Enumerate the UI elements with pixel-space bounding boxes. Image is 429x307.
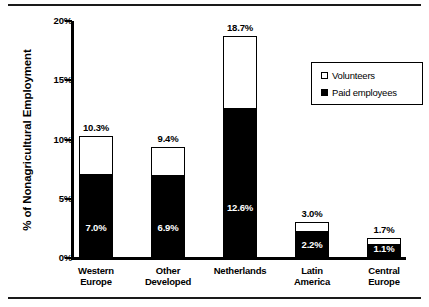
category-label-line: Developed	[129, 276, 207, 287]
category-label-line: America	[273, 276, 351, 287]
y-axis-tick-label: 0%	[38, 253, 72, 263]
x-axis-category-label: LatinAmerica	[273, 265, 351, 287]
legend-item-paid-employees: Paid employees	[321, 87, 397, 98]
category-label-line: Europe	[345, 276, 423, 287]
legend-item-volunteers: Volunteers	[321, 70, 375, 81]
category-label-line: Other	[129, 265, 207, 276]
category-label-line: Western	[57, 265, 135, 276]
bar-segment-paid-employees[interactable]	[79, 175, 113, 258]
category-label-line: Europe	[57, 276, 135, 287]
y-axis-tick-label: 5%	[38, 194, 72, 204]
category-label-line: Latin	[273, 265, 351, 276]
bar-group[interactable]: 1.1%1.7%	[367, 238, 401, 258]
x-axis-category-label: Netherlands	[201, 265, 279, 276]
y-axis-tick-label-wrap: 0%	[22, 253, 72, 263]
bar-total-label: 18.7%	[210, 22, 270, 33]
y-axis-tick-label: 15%	[38, 75, 72, 85]
filled-square-icon	[321, 89, 328, 96]
bar-group[interactable]: 12.6%18.7%	[223, 36, 257, 258]
bar-segment-volunteers[interactable]	[79, 136, 113, 175]
bar-total-label: 1.7%	[354, 224, 414, 235]
bar-segment-paid-employees[interactable]	[223, 109, 257, 258]
legend-label-paid-employees: Paid employees	[332, 87, 397, 98]
bar-segment-paid-employees[interactable]	[151, 176, 185, 258]
bar-total-label: 3.0%	[282, 208, 342, 219]
y-axis-tick-label-wrap: 5%	[22, 194, 72, 204]
y-axis-tick-label: 20%	[38, 16, 72, 26]
hollow-square-icon	[321, 72, 328, 79]
x-axis-category-label: CentralEurope	[345, 265, 423, 287]
x-axis-category-label: WesternEurope	[57, 265, 135, 287]
bar-segment-volunteers[interactable]	[223, 36, 257, 108]
bar-total-label: 10.3%	[66, 122, 126, 133]
plot-area: 7.0%10.3%6.9%9.4%12.6%18.7%2.2%3.0%1.1%1…	[71, 21, 406, 258]
bar-total-label: 9.4%	[138, 133, 198, 144]
y-axis-tick-label-wrap: 20%	[22, 16, 72, 26]
bar-value-label-paid: 2.2%	[295, 239, 329, 250]
bar-value-label-paid: 1.1%	[367, 243, 401, 254]
bar-group[interactable]: 7.0%10.3%	[79, 136, 113, 258]
category-label-line: Central	[345, 265, 423, 276]
bar-value-label-paid: 7.0%	[79, 222, 113, 233]
y-axis-tick-label-wrap: 10%	[22, 135, 72, 145]
stacked-bar-chart: % of Nonagricultural Employment 0%5%10%1…	[0, 0, 429, 307]
y-axis-tick-label-wrap: 15%	[22, 75, 72, 85]
chart-legend: Volunteers Paid employees	[311, 62, 423, 105]
legend-label-volunteers: Volunteers	[332, 70, 375, 81]
y-axis-tick-label: 10%	[38, 135, 72, 145]
bar-value-label-paid: 12.6%	[223, 202, 257, 213]
bar-group[interactable]: 6.9%9.4%	[151, 147, 185, 258]
bar-group[interactable]: 2.2%3.0%	[295, 222, 329, 258]
bar-value-label-paid: 6.9%	[151, 222, 185, 233]
category-label-line: Netherlands	[201, 265, 279, 276]
bar-segment-volunteers[interactable]	[295, 222, 329, 231]
bar-segment-volunteers[interactable]	[151, 147, 185, 177]
x-axis-category-label: OtherDeveloped	[129, 265, 207, 287]
